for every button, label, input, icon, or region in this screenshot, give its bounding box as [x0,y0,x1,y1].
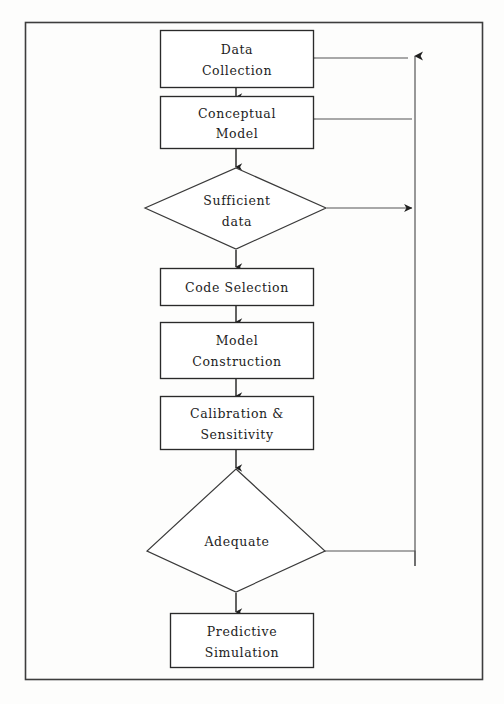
node-sufficient-data-label-line1: Sufficient [203,193,270,208]
node-sufficient-data-shape[interactable] [145,168,326,249]
node-predictive-simulation-label-line2: Simulation [205,645,280,660]
clipped-caption-text [0,691,504,704]
node-code-selection-label-line1: Code Selection [185,280,289,295]
node-sufficient-data-label-line2: data [222,214,252,229]
node-adequate-label-line1: Adequate [203,534,269,549]
figure-page: Data Collection Conceptual Model Suffici… [0,0,504,704]
feedback-bus [325,56,415,566]
node-calibration-sensitivity-label-line1: Calibration & [190,406,284,421]
node-sufficient-data[interactable]: Sufficient data [145,168,326,249]
node-model-construction[interactable]: Model Construction [161,323,314,379]
node-predictive-simulation[interactable]: Predictive Simulation [171,614,314,668]
node-data-collection-label-line1: Data [221,42,253,57]
edge-adequate-to-bus [325,551,415,566]
node-calibration-sensitivity-label-line2: Sensitivity [200,427,274,442]
node-data-collection-label-line2: Collection [202,63,272,78]
node-predictive-simulation-label-line1: Predictive [207,624,277,639]
node-calibration-sensitivity[interactable]: Calibration & Sensitivity [161,397,314,450]
node-code-selection[interactable]: Code Selection [161,269,314,306]
node-model-construction-label-line1: Model [216,333,259,348]
node-adequate[interactable]: Adequate [147,469,325,592]
node-model-construction-shape[interactable] [161,323,314,379]
node-model-construction-label-line2: Construction [192,354,281,369]
node-data-collection-shape[interactable] [161,31,314,88]
flowchart-canvas: Data Collection Conceptual Model Suffici… [0,0,504,704]
node-conceptual-model-label-line2: Model [216,126,259,141]
node-conceptual-model-label-line1: Conceptual [198,106,276,121]
node-adequate-shape[interactable] [147,469,325,592]
node-conceptual-model[interactable]: Conceptual Model [161,97,314,149]
node-data-collection[interactable]: Data Collection [161,31,314,88]
